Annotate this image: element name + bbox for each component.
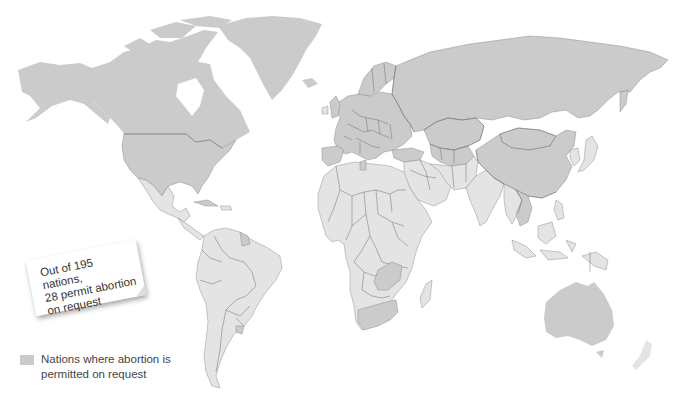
- map-legend: Nations where abortion is permitted on r…: [20, 352, 181, 382]
- region-scandinavia: [358, 62, 396, 96]
- region-new-zealand: [632, 340, 652, 370]
- region-philippines: [554, 200, 564, 220]
- region-kamchatka: [620, 90, 628, 112]
- legend-swatch: [20, 355, 34, 365]
- region-guyana: [240, 232, 250, 246]
- region-iberia: [322, 146, 344, 166]
- region-central-america: [178, 218, 204, 240]
- region-cuba: [194, 200, 218, 206]
- region-indonesia: [512, 222, 576, 260]
- region-uruguay: [236, 326, 244, 334]
- region-iceland: [302, 78, 318, 88]
- region-japan: [578, 136, 598, 172]
- page-curl: [135, 285, 147, 297]
- region-korea: [570, 148, 580, 166]
- region-tasmania: [596, 350, 604, 358]
- legend-label: Nations where abortion is permitted on r…: [41, 352, 181, 382]
- region-australia: [544, 282, 614, 346]
- region-madagascar: [420, 280, 432, 308]
- region-caribbean: [220, 206, 232, 210]
- region-russia: [392, 36, 668, 132]
- region-uk: [330, 96, 340, 118]
- world-map: [0, 0, 687, 410]
- region-canada: [92, 30, 250, 148]
- region-tunisia: [360, 160, 366, 170]
- region-south-america: [196, 228, 282, 388]
- region-greenland: [218, 16, 322, 100]
- region-ireland: [322, 106, 328, 114]
- region-png: [582, 252, 608, 270]
